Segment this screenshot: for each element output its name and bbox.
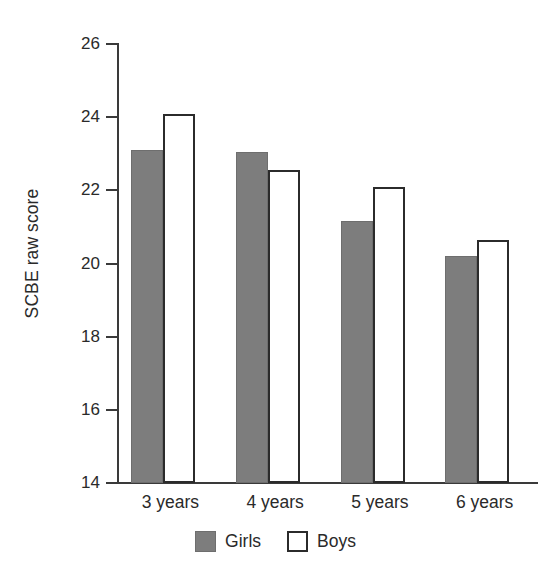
x-axis-label-6-years: 6 years [435, 492, 535, 513]
bar-boys-3-years [163, 114, 195, 483]
y-tick-label: 14 [56, 474, 100, 491]
bar-girls-4-years [236, 152, 268, 483]
y-tick-mark [106, 336, 118, 338]
y-tick-mark [106, 482, 118, 484]
y-tick-mark [106, 43, 118, 45]
chart-legend: GirlsBoys [0, 531, 551, 552]
y-axis-title: SCBE raw score [22, 144, 43, 364]
y-tick-label: 26 [56, 35, 100, 52]
x-axis-label-4-years: 4 years [225, 492, 325, 513]
x-axis-category-labels: 3 years4 years5 years6 years [118, 492, 538, 522]
legend-label-girls: Girls [225, 531, 261, 552]
legend-item-boys: Boys [287, 531, 356, 552]
filled-gray-swatch [195, 531, 216, 552]
y-tick-mark [106, 263, 118, 265]
y-tick-mark [106, 189, 118, 191]
bar-chart-figure: SCBE raw score 14161820222426 3 years4 y… [0, 0, 551, 579]
legend-item-girls: Girls [195, 531, 261, 552]
legend-label-boys: Boys [317, 531, 356, 552]
plot-bars-layer [119, 44, 538, 483]
x-axis-label-3-years: 3 years [120, 492, 220, 513]
x-axis-label-5-years: 5 years [330, 492, 430, 513]
y-tick-mark [106, 116, 118, 118]
y-tick-label: 20 [56, 255, 100, 272]
y-tick-label: 18 [56, 328, 100, 345]
white-outline-swatch [287, 531, 308, 552]
y-tick-label: 24 [56, 108, 100, 125]
bar-girls-6-years [445, 256, 477, 483]
y-tick-label: 16 [56, 401, 100, 418]
bar-boys-6-years [477, 240, 509, 483]
bar-girls-5-years [341, 221, 373, 483]
bar-girls-3-years [131, 150, 163, 483]
bar-boys-4-years [268, 170, 300, 483]
bar-boys-5-years [373, 187, 405, 483]
y-tick-mark [106, 409, 118, 411]
y-tick-label: 22 [56, 181, 100, 198]
